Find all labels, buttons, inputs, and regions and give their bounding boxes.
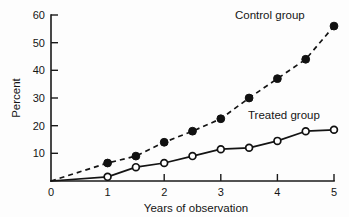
x-axis-ticks bbox=[108, 174, 334, 181]
data-point bbox=[217, 146, 224, 153]
x-tick-label-5: 5 bbox=[331, 186, 337, 198]
y-tick-label-60: 60 bbox=[33, 9, 45, 21]
y-axis-ticks bbox=[51, 15, 58, 153]
data-point bbox=[331, 126, 338, 133]
data-point bbox=[189, 153, 196, 160]
x-tick-label-0: 0 bbox=[48, 186, 54, 198]
data-point bbox=[189, 127, 197, 135]
y-tick-label-50: 50 bbox=[33, 37, 45, 49]
x-tick-label-4: 4 bbox=[274, 186, 280, 198]
x-axis-tick-labels: 0 1 2 3 4 5 bbox=[48, 186, 337, 198]
line-chart: 60 50 40 30 20 10 0 1 2 3 4 5 Percent Ye… bbox=[0, 0, 349, 217]
data-point bbox=[132, 152, 140, 160]
data-point bbox=[330, 22, 338, 30]
y-axis-title: Percent bbox=[10, 77, 22, 117]
y-tick-label-10: 10 bbox=[33, 147, 45, 159]
x-axis-title: Years of observation bbox=[144, 202, 248, 214]
y-tick-label-30: 30 bbox=[33, 92, 45, 104]
data-point bbox=[246, 144, 253, 151]
data-point bbox=[160, 138, 168, 146]
data-point bbox=[274, 75, 282, 83]
data-point bbox=[161, 160, 168, 167]
control-group-label: Control group bbox=[235, 9, 305, 21]
x-tick-label-3: 3 bbox=[218, 186, 224, 198]
y-tick-label-20: 20 bbox=[33, 120, 45, 132]
data-point bbox=[217, 115, 225, 123]
data-point bbox=[302, 55, 310, 63]
treated-group-label: Treated group bbox=[248, 109, 320, 121]
data-point bbox=[104, 173, 111, 180]
x-tick-label-1: 1 bbox=[105, 186, 111, 198]
chart-container: 60 50 40 30 20 10 0 1 2 3 4 5 Percent Ye… bbox=[0, 0, 349, 217]
data-point bbox=[274, 137, 281, 144]
data-point bbox=[133, 164, 140, 171]
y-tick-label-40: 40 bbox=[33, 64, 45, 76]
data-point bbox=[104, 159, 112, 167]
x-tick-label-2: 2 bbox=[161, 186, 167, 198]
data-point bbox=[302, 128, 309, 135]
y-axis-tick-labels: 60 50 40 30 20 10 bbox=[33, 9, 45, 159]
data-point bbox=[245, 94, 253, 102]
